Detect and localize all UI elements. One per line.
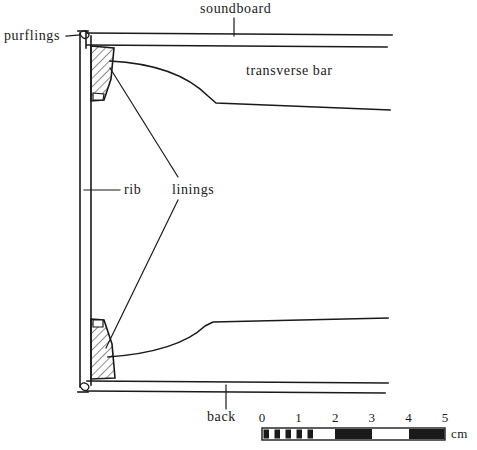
scale-tick-1: 1 — [295, 410, 302, 426]
lining-lower — [91, 319, 115, 379]
label-purflings: purflings — [4, 28, 60, 44]
scale-tick-5: 5 — [442, 410, 449, 426]
soundboard-plate — [87, 33, 392, 47]
diagram-linework — [0, 0, 477, 450]
lining-upper — [91, 46, 114, 101]
label-transverse-bar: transverse bar — [246, 63, 333, 79]
diagram-canvas: soundboard purflings transverse bar rib … — [0, 0, 477, 450]
scale-tick-3: 3 — [369, 410, 376, 426]
rib-wall — [80, 31, 91, 387]
transverse-bar-lower — [108, 318, 388, 357]
scale-tick-0: 0 — [259, 410, 266, 426]
label-soundboard: soundboard — [200, 1, 271, 17]
scale-bar — [262, 428, 445, 440]
scale-tick-2: 2 — [332, 410, 339, 426]
scale-segment-2-3 — [335, 429, 372, 439]
scale-segment-4-5 — [409, 429, 445, 439]
label-rib: rib — [124, 182, 141, 198]
label-linings: linings — [172, 182, 214, 198]
label-back: back — [207, 409, 236, 425]
back-plate — [87, 381, 388, 393]
scale-tick-4: 4 — [405, 410, 412, 426]
label-scale-unit: cm — [451, 426, 468, 442]
